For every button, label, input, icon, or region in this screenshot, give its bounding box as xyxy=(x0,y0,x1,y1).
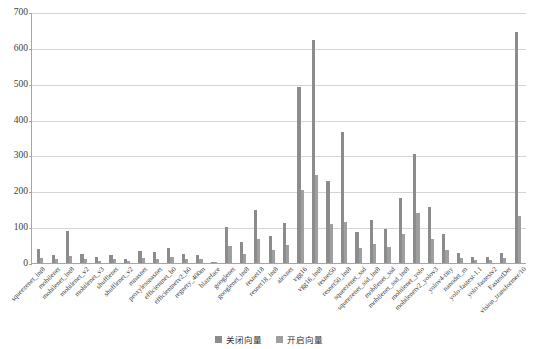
bar-open xyxy=(84,259,87,263)
bar-open xyxy=(170,257,173,263)
legend-item-closed: 关闭向量 xyxy=(215,333,262,345)
bar-open xyxy=(518,216,521,263)
legend-label-closed: 关闭向量 xyxy=(226,333,262,345)
bar-open xyxy=(359,248,362,263)
bar-group xyxy=(308,13,322,263)
y-axis-tick-label: 600 xyxy=(14,44,28,54)
bar-open xyxy=(127,261,130,263)
bar-group xyxy=(221,13,235,263)
bar-open xyxy=(185,259,188,263)
bar-group xyxy=(510,13,524,263)
bar-group xyxy=(250,13,264,263)
bar-open xyxy=(199,259,202,263)
bar-group xyxy=(482,13,496,263)
bar-group xyxy=(33,13,47,263)
bar-open xyxy=(69,256,72,263)
bar-open xyxy=(474,260,477,263)
plot-area: 0100200300400500600700 xyxy=(31,13,526,264)
bar-group xyxy=(265,13,279,263)
bar-open xyxy=(445,250,448,263)
bar-group xyxy=(91,13,105,263)
bar-open xyxy=(156,259,159,263)
bar-open xyxy=(214,262,217,263)
bar-open xyxy=(228,246,231,263)
bar-open xyxy=(387,247,390,263)
bars-group xyxy=(32,13,526,263)
bar-open xyxy=(315,175,318,263)
bar-open xyxy=(431,239,434,263)
chart-legend: 关闭向量 开启向量 xyxy=(0,333,538,345)
bar-group xyxy=(279,13,293,263)
bar-open xyxy=(416,213,419,263)
bar-open xyxy=(301,190,304,264)
bar-group xyxy=(380,13,394,263)
y-axis-tick-label: 400 xyxy=(14,116,28,126)
bar-group xyxy=(149,13,163,263)
bar-open xyxy=(55,259,58,263)
bar-group xyxy=(366,13,380,263)
y-axis-tick-label: 500 xyxy=(14,80,28,90)
y-axis-tick-label: 0 xyxy=(23,259,28,269)
bar-group xyxy=(207,13,221,263)
bar-group xyxy=(76,13,90,263)
bar-group xyxy=(163,13,177,263)
bar-group xyxy=(467,13,481,263)
bar-group xyxy=(105,13,119,263)
bar-group xyxy=(120,13,134,263)
bar-open xyxy=(489,260,492,263)
bar-open xyxy=(286,245,289,263)
bar-open xyxy=(257,239,260,263)
bar-group xyxy=(438,13,452,263)
bar-group xyxy=(62,13,76,263)
y-axis-tick-mark xyxy=(29,264,32,265)
bar-open xyxy=(330,224,333,263)
bar-open xyxy=(503,258,506,263)
bar-open xyxy=(40,258,43,263)
bar-open xyxy=(272,250,275,263)
bar-group xyxy=(192,13,206,263)
bar-open xyxy=(243,254,246,263)
bar-open xyxy=(460,258,463,263)
legend-item-open: 开启向量 xyxy=(276,333,323,345)
y-axis-tick-label: 100 xyxy=(14,223,28,233)
bar-group xyxy=(47,13,61,263)
bar-group xyxy=(293,13,307,263)
bar-group xyxy=(337,13,351,263)
bar-open xyxy=(113,259,116,263)
bar-group xyxy=(178,13,192,263)
bar-group xyxy=(409,13,423,263)
bar-group xyxy=(424,13,438,263)
bar-group xyxy=(453,13,467,263)
bar-group xyxy=(322,13,336,263)
bar-group xyxy=(351,13,365,263)
legend-swatch-open xyxy=(276,336,283,343)
legend-swatch-closed xyxy=(215,336,222,343)
legend-label-open: 开启向量 xyxy=(287,333,323,345)
bar-group xyxy=(496,13,510,263)
y-axis-tick-label: 200 xyxy=(14,188,28,198)
bar-open xyxy=(98,261,101,264)
y-axis-tick-label: 300 xyxy=(14,152,28,162)
bar-open xyxy=(344,222,347,263)
bar-open xyxy=(142,258,145,263)
bar-chart: 0100200300400500600700 squeezenet_int8mo… xyxy=(0,0,538,349)
bar-group xyxy=(395,13,409,263)
bar-group xyxy=(134,13,148,263)
bar-open xyxy=(402,234,405,263)
bar-group xyxy=(236,13,250,263)
y-axis-tick-label: 700 xyxy=(14,8,28,18)
bar-open xyxy=(373,244,376,263)
